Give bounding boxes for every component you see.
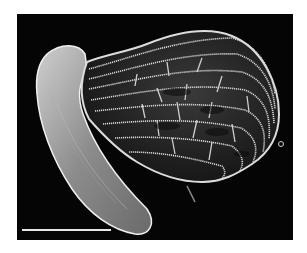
reticulate-seed-coat: [82, 31, 279, 182]
scale-bar: [22, 229, 111, 231]
debris-fragment: [187, 186, 195, 202]
micrograph-panel: [17, 14, 293, 240]
debris-particle: [279, 142, 284, 147]
seed-micrograph: [17, 14, 293, 240]
